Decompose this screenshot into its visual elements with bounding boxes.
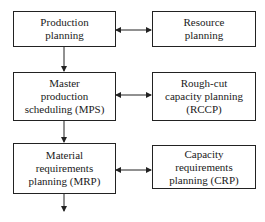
mrp-label: Material requirements planning (MRP) [29,149,101,188]
crp-label: Capacity requirements planning (CRP) [169,148,238,187]
production-planning-box: Production planning [13,11,116,47]
rccp-box: Rough-cut capacity planning (RCCP) [152,72,256,121]
rccp-label: Rough-cut capacity planning (RCCP) [165,77,243,116]
resource-planning-box: Resource planning [152,11,256,47]
production-planning-label: Production planning [40,16,88,42]
mps-label: Master production scheduling (MPS) [25,77,105,116]
mrp-box: Material requirements planning (MRP) [13,143,116,194]
crp-box: Capacity requirements planning (CRP) [152,145,256,189]
mps-box: Master production scheduling (MPS) [13,72,116,121]
resource-planning-label: Resource planning [184,16,225,42]
